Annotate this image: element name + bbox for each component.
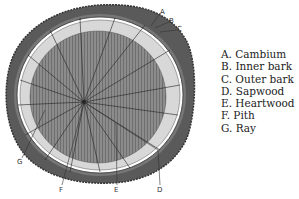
callout-d: D [157,186,162,194]
callout-e: E [114,186,118,194]
callout-c: C [177,25,182,33]
legend-item-ray: G. Ray [221,122,295,134]
legend-item-outer-bark: C. Outer bark [221,73,295,85]
legend: A. Cambium B. Inner bark C. Outer bark D… [221,48,295,134]
heartwood [30,31,166,163]
callout-g: G [17,158,22,166]
legend-item-inner-bark: B. Inner bark [221,60,295,72]
tree-cross-section-diagram: A B C D E F G [0,0,200,199]
callout-f: F [59,186,63,194]
callout-b: B [169,17,174,25]
legend-item-heartwood: E. Heartwood [221,97,295,109]
legend-item-sapwood: D. Sapwood [221,85,295,97]
callout-a: A [160,8,165,16]
legend-item-pith: F. Pith [221,109,295,121]
legend-item-cambium: A. Cambium [221,48,295,60]
